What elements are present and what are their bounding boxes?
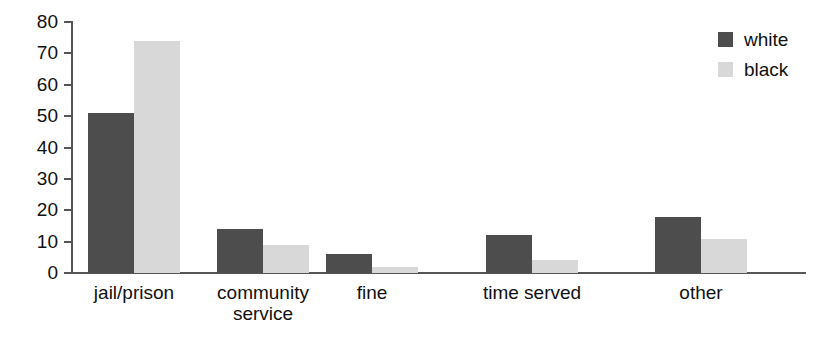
bar-white-time-served [486,235,532,273]
bar-group [88,22,180,273]
bar-white-fine [326,254,372,273]
y-axis-tick-label: 10 [6,232,58,251]
y-axis-tick-label: 40 [6,138,58,157]
bar-white-jail-prison [88,113,134,273]
y-axis-tick-label: 60 [6,75,58,94]
bar-group [326,22,418,273]
y-axis-tick [64,21,72,23]
y-axis-tick [64,272,72,274]
y-axis-tick [64,209,72,211]
bar-black-time-served [532,260,578,273]
bar-black-community-service [263,245,309,273]
plot-area [72,22,802,273]
x-axis-label-fine: fine [287,282,457,303]
legend-label-white: white [744,30,788,49]
bar-group [486,22,578,273]
legend-swatch-white-icon [718,32,733,47]
y-axis-tick [64,241,72,243]
bar-black-jail-prison [134,41,180,273]
bar-group [217,22,309,273]
y-axis-tick-label: 30 [6,169,58,188]
bar-white-community-service [217,229,263,273]
y-axis-tick [64,147,72,149]
legend: white black [718,24,788,84]
y-axis-tick-label: 70 [6,43,58,62]
y-axis-tick-label: 0 [6,263,58,282]
y-axis-tick [64,84,72,86]
legend-label-black: black [744,60,788,79]
x-axis-label-time-served: time served [447,282,617,303]
y-axis-tick [64,115,72,117]
y-axis-tick-label: 80 [6,12,58,31]
legend-item-white: white [718,24,788,54]
legend-item-black: black [718,54,788,84]
x-axis-label-other: other [616,282,786,303]
bar-black-fine [372,267,418,273]
bar-white-other [655,217,701,273]
y-axis-tick-label: 50 [6,106,58,125]
y-axis-tick [64,178,72,180]
y-axis-tick [64,52,72,54]
legend-swatch-black-icon [718,62,733,77]
y-axis-tick-label: 20 [6,200,58,219]
bar-black-other [701,239,747,274]
bar-chart: 01020304050607080 jail/prisoncommunity s… [0,0,838,343]
